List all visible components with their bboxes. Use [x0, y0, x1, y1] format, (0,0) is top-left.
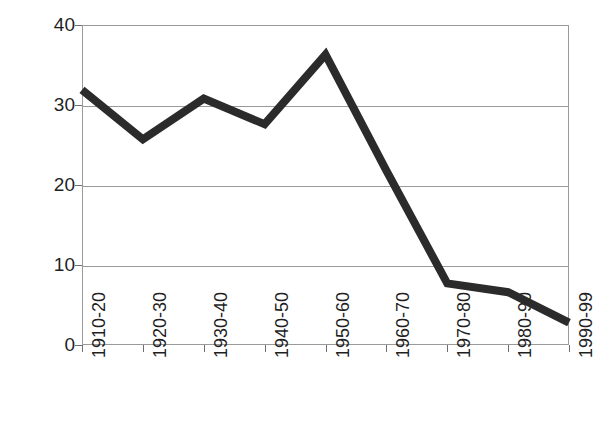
- x-tick-label: 1960-70: [393, 292, 414, 358]
- y-tick-label: 10: [29, 254, 75, 276]
- y-tick-label: 0: [29, 334, 75, 356]
- gridline: [83, 106, 568, 107]
- x-tick-mark: [143, 345, 144, 352]
- x-tick-label: 1970-80: [454, 292, 475, 358]
- x-tick-label: 1910-20: [89, 292, 110, 358]
- y-tick-mark: [75, 345, 82, 346]
- line-chart: Millions of Deaths 010203040 1910-201920…: [0, 0, 596, 428]
- y-tick-mark: [75, 105, 82, 106]
- x-tick-mark: [569, 345, 570, 352]
- x-tick-label: 1950-60: [333, 292, 354, 358]
- x-tick-label: 1980-90: [515, 292, 536, 358]
- y-tick-label: 30: [29, 94, 75, 116]
- x-tick-mark: [508, 345, 509, 352]
- x-tick-label: 1990-99: [576, 292, 596, 358]
- y-tick-mark: [75, 25, 82, 26]
- y-tick-mark: [75, 185, 82, 186]
- x-tick-label: 1940-50: [272, 292, 293, 358]
- gridline: [83, 266, 568, 267]
- x-tick-mark: [204, 345, 205, 352]
- x-tick-mark: [386, 345, 387, 352]
- y-axis-title-label: Millions of Deaths: [4, 0, 26, 55]
- x-tick-mark: [447, 345, 448, 352]
- x-tick-mark: [265, 345, 266, 352]
- x-tick-mark: [82, 345, 83, 352]
- x-tick-label: 1930-40: [211, 292, 232, 358]
- y-tick-label: 20: [29, 174, 75, 196]
- x-tick-label: 1920-30: [150, 292, 171, 358]
- y-tick-label: 40: [29, 14, 75, 36]
- y-tick-mark: [75, 265, 82, 266]
- x-tick-mark: [326, 345, 327, 352]
- gridline: [83, 186, 568, 187]
